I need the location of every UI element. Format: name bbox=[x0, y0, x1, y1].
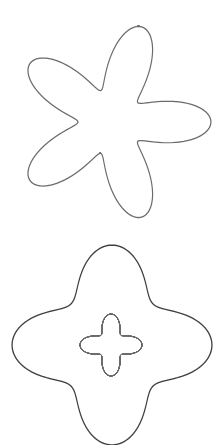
spirograph-canvas bbox=[0, 0, 224, 445]
background bbox=[0, 0, 224, 445]
